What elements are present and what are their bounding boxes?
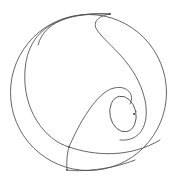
vertex-point — [66, 169, 68, 171]
vertex-point — [68, 146, 70, 148]
diagram-canvas — [0, 0, 176, 184]
background — [0, 0, 176, 184]
curve-diagram — [0, 0, 176, 184]
vertex-point — [109, 13, 111, 15]
center-point — [133, 113, 135, 115]
